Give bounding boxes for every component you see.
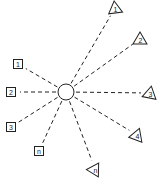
dashed-connector xyxy=(74,44,133,86)
dashed-connector xyxy=(43,101,62,143)
hub-circle xyxy=(58,84,74,100)
square-node-1: 1 xyxy=(14,60,23,69)
square-node-label: 3 xyxy=(9,124,13,131)
dashed-connector xyxy=(19,97,58,122)
dashed-connector xyxy=(71,16,110,84)
square-node-2: 2 xyxy=(7,88,16,97)
dashed-connector xyxy=(75,97,130,130)
triangle-node-label: n xyxy=(94,167,98,174)
dashed-connectors xyxy=(19,16,141,161)
square-node-label: 1 xyxy=(16,61,20,68)
triangle-node-2: 2 xyxy=(133,32,147,44)
triangle-node-label: 3 xyxy=(149,91,153,98)
triangle-node-1: 1 xyxy=(107,0,122,14)
triangle-node-label: 4 xyxy=(136,133,140,140)
triangle-node-3: 3 xyxy=(142,85,158,99)
square-node-3: 3 xyxy=(7,123,16,132)
square-node-n: n xyxy=(35,147,44,156)
triangle-node-n: n xyxy=(86,159,104,177)
triangle-nodes: 1234n xyxy=(86,0,158,177)
hub-spoke-diagram: 123n 1234n hub-and-spoke xyxy=(0,0,161,182)
square-node-label: 2 xyxy=(9,89,13,96)
square-node-label: n xyxy=(37,148,41,155)
triangle-node-label: 2 xyxy=(139,37,143,44)
dashed-connector xyxy=(26,69,58,87)
triangle-node-label: 1 xyxy=(114,6,118,13)
triangle-node-4: 4 xyxy=(129,126,146,142)
dashed-connector xyxy=(76,92,141,93)
square-nodes: 123n xyxy=(7,60,44,156)
dashed-connector xyxy=(70,101,92,160)
